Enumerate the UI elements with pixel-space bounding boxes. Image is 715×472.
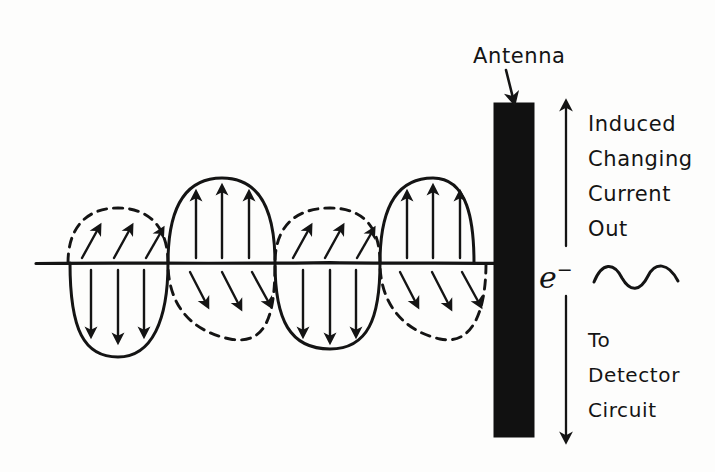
diagram-canvas: Antenna Induced Changing Current Out e− … (0, 0, 715, 472)
signal-squiggle-icon (594, 266, 678, 288)
lobe-arrow-group (303, 270, 356, 338)
lobe-arrow-group (190, 272, 269, 305)
induced-label-line-3: Current (588, 182, 671, 206)
antenna-wave-diagram: Antenna Induced Changing Current Out e− … (0, 0, 715, 472)
propagation-axis (36, 263, 494, 264)
lobe-arrow-group (196, 190, 249, 258)
wave-solid-curve (70, 178, 474, 357)
electron-symbol: e (539, 260, 557, 295)
lobe-arrow-group (407, 190, 460, 258)
lobe-arrow-group (82, 229, 161, 258)
electron-label: e− (539, 258, 573, 295)
detector-label-line-1: To (587, 328, 610, 352)
antenna-pointer-icon (506, 70, 513, 98)
lobe-arrow-group (91, 270, 144, 338)
antenna-bar[interactable] (494, 103, 534, 437)
wave-dashed-curve (68, 208, 486, 340)
lobe-arrow-group (400, 272, 479, 305)
induced-label-line-2: Changing (588, 147, 693, 171)
antenna-label: Antenna (473, 44, 566, 68)
induced-label-line-1: Induced (588, 112, 676, 136)
detector-label-line-2: Detector (588, 363, 680, 387)
electron-charge-sign: − (557, 258, 573, 280)
induced-label-line-4: Out (588, 217, 628, 241)
detector-label-line-3: Circuit (588, 398, 657, 422)
lobe-arrow-group (293, 229, 372, 258)
